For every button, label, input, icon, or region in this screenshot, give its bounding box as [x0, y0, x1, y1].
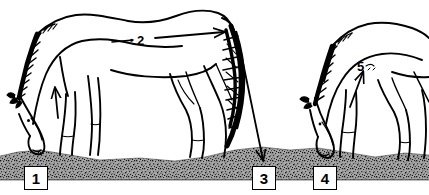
- callout-label-2[interactable]: 2: [137, 34, 144, 47]
- arrow-to-1: [55, 88, 58, 118]
- ground-strip: [0, 140, 429, 185]
- grazing-horses-figure: 1 2 3 4 5: [0, 0, 429, 195]
- callout-label-4[interactable]: 4: [313, 166, 337, 190]
- line-drawing-artwork: [0, 0, 429, 195]
- right-horse: [300, 23, 429, 160]
- callout-label-3[interactable]: 3: [252, 166, 276, 190]
- callout-label-5[interactable]: 5: [357, 60, 364, 73]
- callout-label-1[interactable]: 1: [24, 166, 48, 190]
- arrow-2-right: [155, 32, 224, 38]
- left-horse-mane: [19, 24, 57, 98]
